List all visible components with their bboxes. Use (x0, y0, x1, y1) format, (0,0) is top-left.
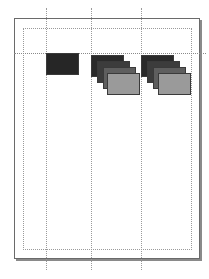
group2-rectangle[interactable] (107, 73, 140, 95)
horizontal-guide[interactable] (14, 53, 206, 54)
vertical-guide[interactable] (46, 8, 47, 270)
vertical-guide[interactable] (91, 8, 92, 270)
group3-rectangle[interactable] (158, 73, 191, 95)
vertical-guide[interactable] (141, 8, 142, 270)
group1-rectangle[interactable] (46, 53, 79, 75)
